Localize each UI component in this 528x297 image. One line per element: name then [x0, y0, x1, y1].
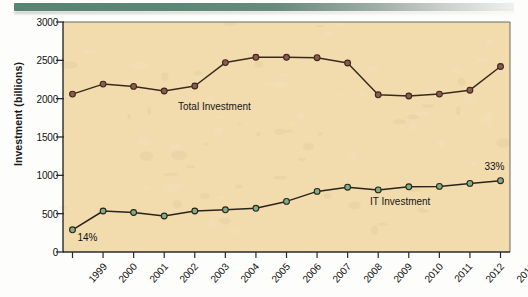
data-point-it-investment-2000[interactable]: [100, 208, 106, 214]
data-point-it-investment-2005[interactable]: [253, 205, 259, 211]
data-point-total-investment-2005[interactable]: [253, 54, 259, 60]
data-point-total-investment-2010[interactable]: [406, 93, 412, 99]
series-label-it-investment: IT Investment: [370, 196, 430, 207]
data-point-it-investment-2003[interactable]: [192, 208, 198, 214]
annotation-14-percent: 14%: [78, 232, 98, 243]
data-point-total-investment-2008[interactable]: [345, 60, 351, 66]
data-point-total-investment-2003[interactable]: [192, 83, 198, 89]
data-point-total-investment-2006[interactable]: [284, 54, 290, 60]
data-point-total-investment-1999[interactable]: [70, 91, 76, 97]
series-label-total-investment: Total Investment: [178, 101, 251, 112]
data-point-total-investment-2011[interactable]: [437, 91, 443, 97]
data-point-total-investment-2007[interactable]: [314, 55, 320, 61]
data-point-it-investment-2008[interactable]: [345, 184, 351, 190]
data-point-it-investment-2012[interactable]: [467, 181, 473, 187]
data-point-total-investment-2002[interactable]: [161, 88, 167, 94]
data-point-it-investment-2013[interactable]: [498, 178, 504, 184]
data-point-it-investment-2001[interactable]: [131, 210, 137, 216]
data-point-it-investment-2002[interactable]: [161, 213, 167, 219]
page-canvas: Investment (billions) 050010001500200025…: [0, 0, 528, 297]
data-point-it-investment-2011[interactable]: [437, 184, 443, 190]
data-point-it-investment-2010[interactable]: [406, 184, 412, 190]
data-point-it-investment-1999[interactable]: [70, 227, 76, 233]
data-point-it-investment-2004[interactable]: [223, 207, 229, 213]
data-point-total-investment-2001[interactable]: [131, 84, 137, 90]
data-point-total-investment-2004[interactable]: [223, 60, 229, 66]
data-point-it-investment-2006[interactable]: [284, 199, 290, 205]
investment-line-chart: Investment (billions) 050010001500200025…: [0, 0, 528, 297]
data-point-total-investment-2009[interactable]: [375, 92, 381, 98]
plot-area: [0, 0, 528, 297]
data-point-it-investment-2009[interactable]: [375, 187, 381, 193]
data-point-total-investment-2000[interactable]: [100, 81, 106, 87]
annotation-33-percent: 33%: [485, 161, 505, 172]
data-point-total-investment-2012[interactable]: [467, 87, 473, 93]
data-point-total-investment-2013[interactable]: [498, 64, 504, 70]
data-point-it-investment-2007[interactable]: [314, 189, 320, 195]
